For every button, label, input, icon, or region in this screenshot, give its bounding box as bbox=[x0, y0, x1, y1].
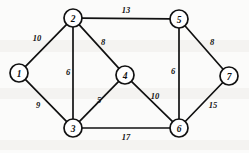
edge-weight-2-3: 6 bbox=[66, 67, 71, 77]
graph-edge-1-2 bbox=[25, 24, 66, 66]
graph-canvas: 1234567 1096813517106815 bbox=[0, 0, 249, 153]
edge-weight-4-6: 10 bbox=[151, 91, 160, 101]
edge-weight-2-4: 8 bbox=[101, 37, 106, 47]
node-label-5: 5 bbox=[177, 15, 182, 25]
graph-edge-5-7 bbox=[185, 26, 223, 69]
graph-node-6: 6 bbox=[170, 119, 188, 137]
weighted-graph-figure: 1234567 1096813517106815 bbox=[0, 0, 249, 153]
node-label-3: 3 bbox=[70, 124, 76, 134]
edge-weight-3-6: 17 bbox=[122, 132, 131, 142]
edge-weight-5-7: 8 bbox=[210, 37, 215, 47]
graph-edge-1-3 bbox=[25, 79, 66, 121]
edge-weight-6-7: 15 bbox=[209, 100, 218, 110]
graph-node-2: 2 bbox=[64, 9, 82, 27]
graph-node-5: 5 bbox=[170, 10, 188, 28]
edge-weight-1-3: 9 bbox=[36, 100, 41, 110]
graph-node-1: 1 bbox=[10, 64, 28, 82]
graph-node-3: 3 bbox=[64, 119, 82, 137]
graph-edge-2-4 bbox=[79, 25, 119, 69]
node-label-4: 4 bbox=[122, 71, 128, 81]
edge-weight-5-6: 6 bbox=[171, 66, 176, 76]
node-label-1: 1 bbox=[17, 69, 22, 79]
edge-weight-1-2: 10 bbox=[33, 33, 42, 43]
nodes-layer: 1234567 bbox=[10, 9, 238, 137]
node-label-6: 6 bbox=[177, 124, 182, 134]
edge-weight-2-5: 13 bbox=[122, 5, 131, 15]
graph-edge-2-5 bbox=[82, 18, 170, 19]
node-label-2: 2 bbox=[70, 14, 76, 24]
graph-edge-4-6 bbox=[131, 81, 172, 121]
graph-node-4: 4 bbox=[116, 66, 134, 84]
graph-node-7: 7 bbox=[220, 67, 238, 85]
